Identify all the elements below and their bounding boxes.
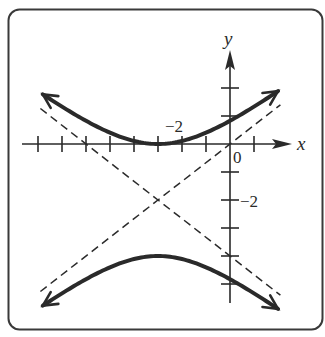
y-tick-label-neg2: −2 — [240, 192, 258, 211]
x-tick-label-neg2: −2 — [165, 117, 183, 136]
lower-branch — [43, 256, 278, 309]
origin-label: 0 — [233, 148, 242, 167]
x-axis-label: x — [296, 133, 306, 154]
hyperbola-graph: x y 0 −2 −2 — [0, 0, 325, 337]
axes — [22, 50, 292, 303]
graph-frame — [9, 10, 323, 330]
upper-branch — [43, 91, 278, 144]
y-axis-label: y — [222, 28, 233, 49]
